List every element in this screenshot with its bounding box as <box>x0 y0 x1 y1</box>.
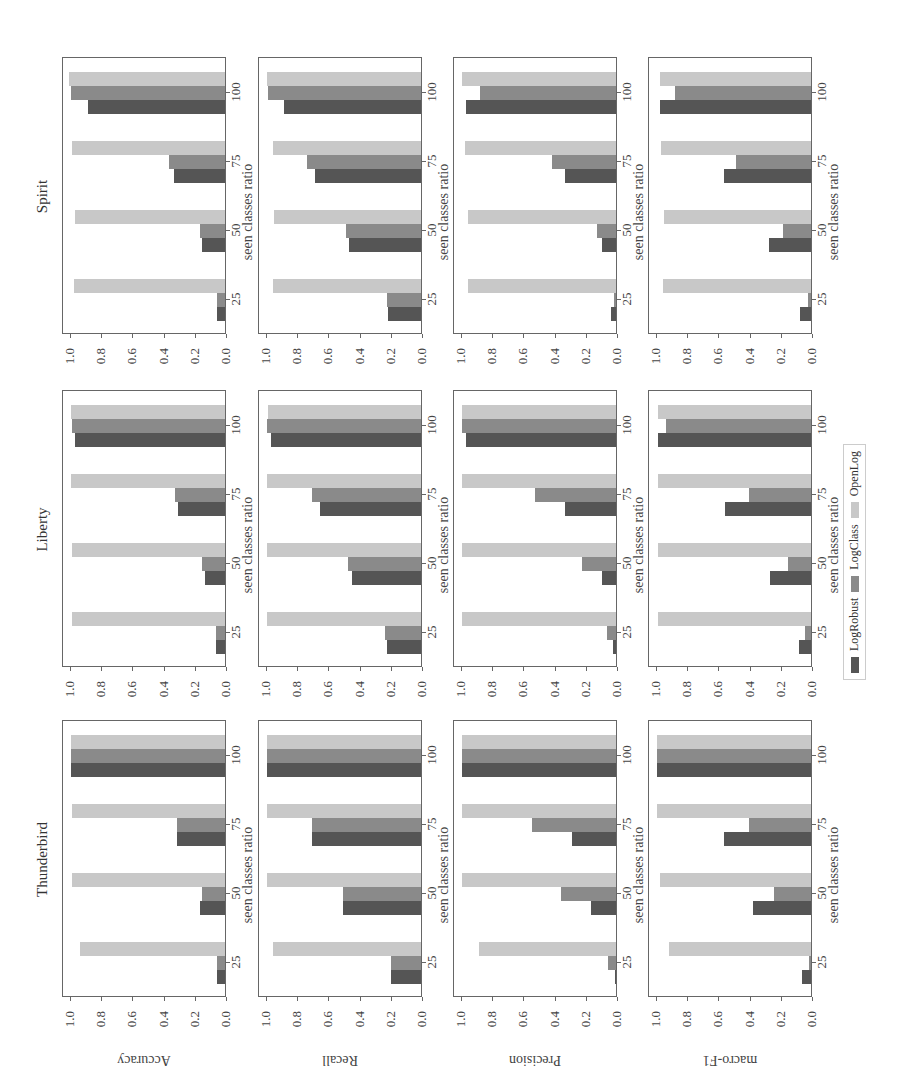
y-tick-mark <box>718 667 719 671</box>
y-tick-mark <box>718 997 719 1001</box>
y-tick-label: 0.4 <box>156 341 172 371</box>
y-tick-label: 1.0 <box>453 1004 469 1034</box>
bar-logrobust <box>217 307 225 321</box>
chart-panel-spirit-macro-f1 <box>648 57 812 334</box>
bar-logrobust <box>388 307 421 321</box>
y-tick-mark <box>391 997 392 1001</box>
bar-openlog <box>274 210 421 224</box>
y-tick-label: 0.6 <box>710 1004 726 1034</box>
bar-logclass <box>607 626 616 640</box>
y-tick-mark <box>687 667 688 671</box>
y-tick-mark <box>812 667 813 671</box>
x-axis-label: seen classes ratio <box>631 465 647 625</box>
bar-logclass <box>597 224 616 238</box>
bar-logclass <box>268 86 421 100</box>
bar-logclass <box>809 956 811 970</box>
bar-logrobust <box>387 640 421 654</box>
bar-openlog <box>273 942 421 956</box>
y-tick-label: 0.0 <box>218 341 234 371</box>
bar-logclass <box>343 887 421 901</box>
bar-openlog <box>664 210 811 224</box>
bar-logrobust <box>217 970 225 984</box>
bar-logrobust <box>271 433 421 447</box>
y-tick-mark <box>492 997 493 1001</box>
bar-logclass <box>614 293 616 307</box>
y-tick-label: 0.8 <box>289 341 305 371</box>
y-tick-mark <box>656 667 657 671</box>
bar-logrobust <box>352 571 421 585</box>
bar-openlog <box>273 279 421 293</box>
bar-openlog <box>462 612 616 626</box>
bar-logclass <box>666 419 811 433</box>
x-axis-label: seen classes ratio <box>826 465 842 625</box>
y-tick-label: 1.0 <box>258 1004 274 1034</box>
bar-openlog <box>80 942 225 956</box>
x-axis-label: seen classes ratio <box>240 132 256 292</box>
x-tick-label: 100 <box>619 410 635 440</box>
y-tick-mark <box>422 997 423 1001</box>
y-tick-label: 0.4 <box>547 341 563 371</box>
bar-openlog <box>72 612 225 626</box>
y-tick-label: 0.8 <box>93 674 109 704</box>
y-tick-mark <box>101 667 102 671</box>
y-tick-mark <box>617 334 618 338</box>
bar-logrobust <box>466 100 616 114</box>
bar-logrobust <box>216 640 225 654</box>
chart-panel-spirit-precision <box>453 57 617 334</box>
x-tick-label: 100 <box>619 740 635 770</box>
bar-logrobust <box>724 169 811 183</box>
y-tick-mark <box>164 334 165 338</box>
x-tick-label: 100 <box>228 410 244 440</box>
y-tick-label: 0.2 <box>383 341 399 371</box>
bar-logrobust <box>565 169 616 183</box>
bar-logclass <box>462 419 616 433</box>
y-tick-mark <box>492 667 493 671</box>
y-tick-label: 0.0 <box>218 1004 234 1034</box>
y-tick-label: 0.6 <box>515 341 531 371</box>
y-tick-mark <box>422 667 423 671</box>
y-tick-label: 0.0 <box>804 1004 820 1034</box>
chart-panel-thunderbird-recall <box>258 720 422 997</box>
bar-openlog <box>663 279 811 293</box>
y-tick-label: 0.6 <box>710 674 726 704</box>
chart-panel-liberty-recall <box>258 390 422 667</box>
bar-openlog <box>657 804 811 818</box>
y-tick-mark <box>586 667 587 671</box>
legend-label-logclass: LogClass <box>847 524 862 569</box>
y-tick-mark <box>195 667 196 671</box>
dataset-title: Thunderbird <box>34 799 51 919</box>
bar-logclass <box>736 155 811 169</box>
y-tick-mark <box>492 334 493 338</box>
legend-label-openlog: OpenLog <box>847 451 862 496</box>
y-tick-mark <box>226 997 227 1001</box>
bar-logrobust <box>602 238 616 252</box>
bar-logrobust <box>462 763 616 777</box>
bar-logrobust <box>565 502 616 516</box>
chart-legend: LogRobustLogClassOpenLog <box>843 444 866 680</box>
y-tick-label: 0.8 <box>484 1004 500 1034</box>
y-tick-mark <box>461 997 462 1001</box>
y-tick-mark <box>360 997 361 1001</box>
bar-logclass <box>307 155 421 169</box>
bar-logclass <box>72 419 225 433</box>
y-tick-label: 1.0 <box>648 341 664 371</box>
bar-openlog <box>267 72 421 86</box>
y-tick-mark <box>586 997 587 1001</box>
bar-openlog <box>658 474 811 488</box>
y-tick-mark <box>70 997 71 1001</box>
chart-panel-thunderbird-precision <box>453 720 617 997</box>
x-axis-label: seen classes ratio <box>436 795 452 955</box>
bar-openlog <box>660 873 811 887</box>
bar-openlog <box>267 474 421 488</box>
y-tick-mark <box>750 334 751 338</box>
y-tick-mark <box>226 334 227 338</box>
bar-logclass <box>202 887 225 901</box>
y-tick-label: 0.0 <box>414 341 430 371</box>
bar-logrobust <box>174 169 225 183</box>
bar-logrobust <box>799 640 811 654</box>
bar-logrobust <box>602 571 616 585</box>
bar-openlog <box>462 72 616 86</box>
bar-openlog <box>479 942 616 956</box>
bar-openlog <box>669 942 811 956</box>
bar-logclass <box>217 956 225 970</box>
